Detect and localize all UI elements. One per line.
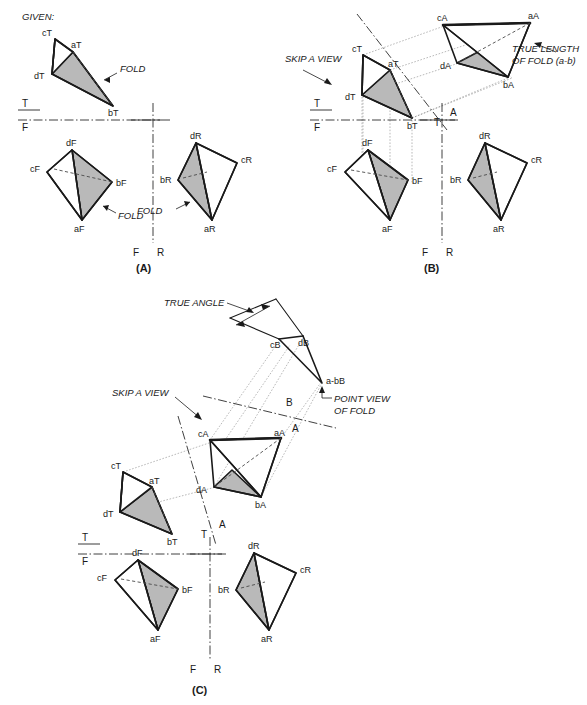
fold-callout-r-a: FOLD [137, 205, 162, 216]
vertex-label-cT-c: cT [111, 461, 122, 471]
vertex-label-dF-c: dF [132, 548, 143, 558]
vertex-label-cA-c: cA [198, 429, 209, 439]
vertex-label-dA-b: dA [440, 61, 451, 71]
fold-label-r-b: R [446, 247, 453, 258]
vertex-label-bR-b: bR [450, 175, 462, 185]
vertex-label-aF-c: aF [150, 634, 161, 644]
vertex-label-cR-a: cR [241, 155, 253, 165]
fold-label-t-c: T [201, 529, 207, 540]
vertex-label-dR-b: dR [479, 131, 491, 141]
vertex-label-bR-a: bR [160, 175, 172, 185]
vertex-label-aR-a: aR [204, 224, 216, 234]
fold-label-b-c: B [286, 397, 293, 408]
vertex-label-dT-a: dT [34, 71, 45, 81]
technical-drawing-canvas: GIVEN: T F F R cT [0, 0, 587, 705]
vertex-label-bF-a: bF [116, 178, 127, 188]
given-label: GIVEN: [22, 11, 55, 22]
vertex-label-aF-a: aF [74, 224, 85, 234]
vertex-label-aT-a: aT [71, 40, 82, 50]
fold-label-f-a: F [22, 122, 28, 133]
vertex-label-cF-c: cF [97, 573, 108, 583]
point-view-label-line2-c: OF FOLD [334, 405, 375, 416]
vertex-label-dR-a: dR [190, 131, 202, 141]
vertex-label-bA-b: bA [503, 80, 514, 90]
true-length-label-line1-b: TRUE LENGTH [512, 43, 579, 54]
vertex-label-cR-b: cR [531, 155, 543, 165]
fold-label-r-a: R [157, 247, 164, 258]
vertex-label-bR-c: bR [218, 585, 230, 595]
skip-a-view-label-b: SKIP A VIEW [285, 53, 343, 64]
vertex-label-aA-b: aA [528, 11, 539, 21]
vertex-label-cT-a: cT [42, 28, 53, 38]
vertex-label-cB-c: cB [270, 340, 281, 350]
true-angle-label-c: TRUE ANGLE [164, 297, 225, 308]
vertex-label-cF-b: cF [327, 164, 338, 174]
fold-label-t2-b: T [314, 98, 320, 109]
skip-a-view-label-c: SKIP A VIEW [112, 387, 170, 398]
vertex-label-aR-b: aR [493, 224, 505, 234]
fold-label-f3-c: F [190, 664, 196, 675]
vertex-label-dF-a: dF [66, 138, 77, 148]
fold-label-a-c: A [219, 519, 226, 530]
fold-label-f2-a: F [133, 247, 139, 258]
panel-label-c: (C) [192, 684, 208, 696]
vertex-label-cT-b: cT [352, 44, 363, 54]
fold-label-t2-c: T [82, 532, 88, 543]
vertex-label-dF-b: dF [362, 138, 373, 148]
fold-label-a-b: A [450, 107, 457, 118]
vertex-label-cF-a: cF [30, 164, 41, 174]
fold-label-a2-c: A [292, 423, 299, 434]
vertex-label-bT-b: bT [407, 121, 418, 131]
vertex-label-aT-b: aT [388, 59, 399, 69]
vertex-label-aA-c: aA [274, 428, 285, 438]
fold-callout-t-a: FOLD [120, 63, 145, 74]
vertex-label-bA-c: bA [255, 500, 266, 510]
vertex-label-cR-c: cR [300, 565, 312, 575]
sheet-background [0, 0, 587, 705]
vertex-label-bT-a: bT [108, 108, 119, 118]
vertex-label-dR-c: dR [248, 541, 260, 551]
vertex-label-dA-c: dA [196, 485, 207, 495]
vertex-label-aT-c: aT [149, 476, 160, 486]
vertex-label-bT-c: bT [167, 537, 178, 547]
fold-label-f-b: F [314, 122, 320, 133]
vertex-label-abB-c: a-bB [326, 376, 345, 386]
edge-cd-t-b [362, 55, 363, 95]
vertex-label-cA-b: cA [437, 13, 448, 23]
vertex-label-bF-b: bF [412, 176, 423, 186]
vertex-label-aF-b: aF [382, 224, 393, 234]
point-view-label-line1-c: POINT VIEW [334, 393, 391, 404]
true-length-label-line2-b: OF FOLD (a-b) [512, 55, 576, 66]
vertex-label-dT-c: dT [103, 509, 114, 519]
fold-label-t-b: T [434, 117, 440, 128]
vertex-label-dB-c: dB [298, 338, 309, 348]
fold-label-t-a: T [22, 98, 28, 109]
drawing-sheet: GIVEN: T F F R cT [0, 0, 587, 705]
vertex-label-dT-b: dT [345, 92, 356, 102]
vertex-label-bF-c: bF [182, 585, 193, 595]
fold-label-r-c: R [214, 664, 221, 675]
fold-label-f3-b: F [422, 247, 428, 258]
vertex-label-aR-c: aR [261, 634, 273, 644]
panel-label-b: (B) [424, 262, 440, 274]
panel-label-a: (A) [136, 262, 152, 274]
fold-label-f-c: F [82, 556, 88, 567]
